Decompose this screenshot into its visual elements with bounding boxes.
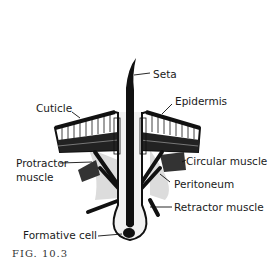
label-peritoneum: Peritoneum xyxy=(174,178,234,190)
label-formative-cell: Formative cell xyxy=(23,229,97,241)
label-epidermis: Epidermis xyxy=(175,95,227,107)
figure-caption: FIG. 10.3 xyxy=(12,248,68,258)
formative-cell-nucleus xyxy=(123,228,135,238)
label-protractor: Protractor xyxy=(16,157,68,169)
body-wall-right xyxy=(140,112,200,152)
label-cuticle: Cuticle xyxy=(36,102,72,114)
label-seta: Seta xyxy=(153,68,177,80)
label-protractor-line2: muscle xyxy=(16,171,54,183)
setal-diagram xyxy=(0,0,269,258)
label-retractor-muscle: Retractor muscle xyxy=(174,201,264,213)
body-wall-left xyxy=(55,112,122,152)
label-circular-muscle: Circular muscle xyxy=(186,155,267,167)
